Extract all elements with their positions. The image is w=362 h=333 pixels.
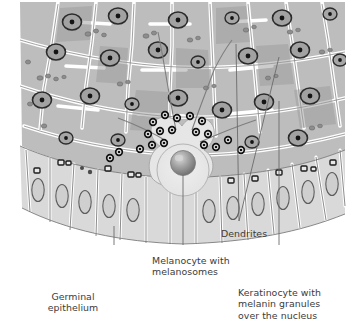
label-dendrites: Dendrites (221, 228, 291, 239)
label-germinal-epithelium: Germinal epithelium (14, 291, 132, 314)
illustration-canvas (0, 0, 362, 333)
label-keratinocyte-with-melanin-granules: Keratinocyte with melanin granules over … (238, 287, 358, 321)
label-melanocyte-with-melanosomes: Melanocyte with melanosomes (152, 255, 262, 278)
figure-epidermis-melanocyte: Germinal epithelium Melanocyte with mela… (0, 0, 362, 333)
